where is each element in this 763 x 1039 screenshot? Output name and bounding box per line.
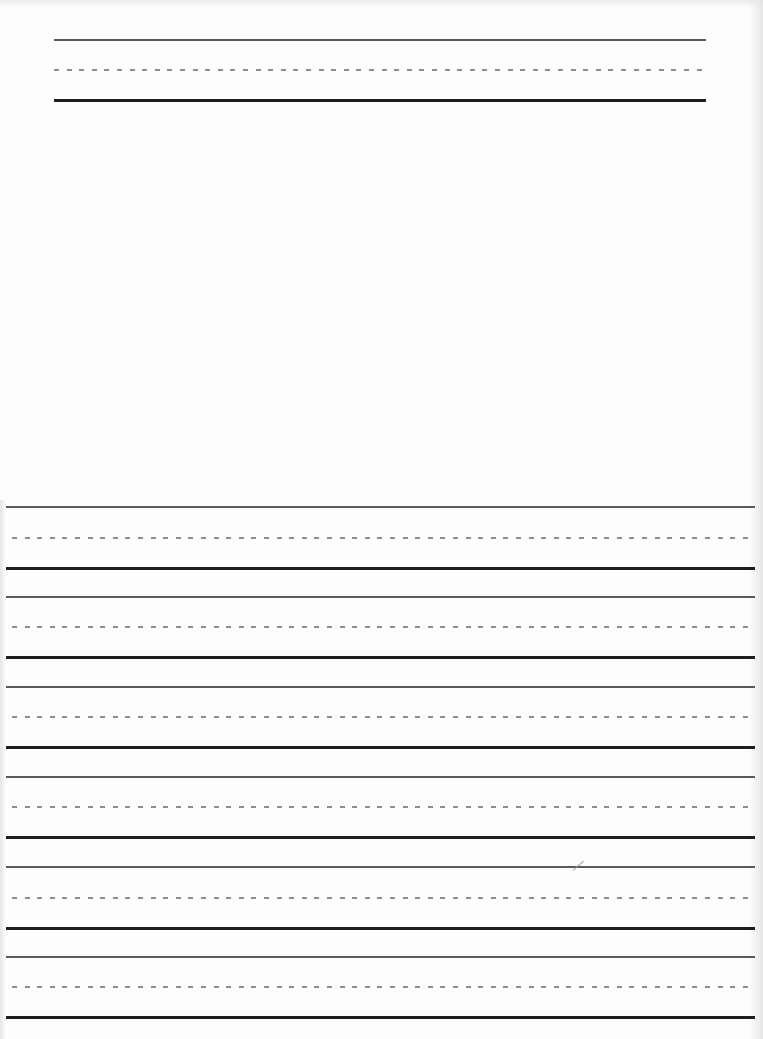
- top-line: [6, 866, 755, 868]
- scan-shadow-top: [0, 0, 763, 8]
- baseline: [6, 746, 755, 749]
- dashed-midline: [12, 537, 755, 539]
- dashed-midline: [12, 897, 755, 899]
- baseline: [6, 1016, 755, 1019]
- drawing-area[interactable]: [54, 104, 706, 504]
- baseline: [54, 99, 706, 102]
- dashed-midline: [12, 806, 755, 808]
- top-line: [6, 776, 755, 778]
- baseline: [6, 656, 755, 659]
- top-line: [6, 506, 755, 508]
- dashed-midline: [12, 986, 755, 988]
- top-line: [54, 39, 706, 41]
- writing-lines-1[interactable]: [6, 506, 755, 570]
- baseline: [6, 567, 755, 570]
- top-line: [6, 686, 755, 688]
- worksheet-page: [0, 0, 763, 1039]
- writing-lines-3[interactable]: [6, 686, 755, 750]
- writing-lines-4[interactable]: [6, 776, 755, 840]
- baseline: [6, 836, 755, 839]
- writing-lines-2[interactable]: [6, 596, 755, 660]
- top-line: [6, 956, 755, 958]
- dashed-midline: [12, 626, 755, 628]
- header-writing-lines[interactable]: [54, 39, 706, 103]
- writing-lines-5[interactable]: [6, 866, 755, 930]
- writing-lines-6[interactable]: [6, 956, 755, 1020]
- top-line: [6, 596, 755, 598]
- dashed-midline: [54, 69, 706, 71]
- baseline: [6, 927, 755, 930]
- dashed-midline: [12, 716, 755, 718]
